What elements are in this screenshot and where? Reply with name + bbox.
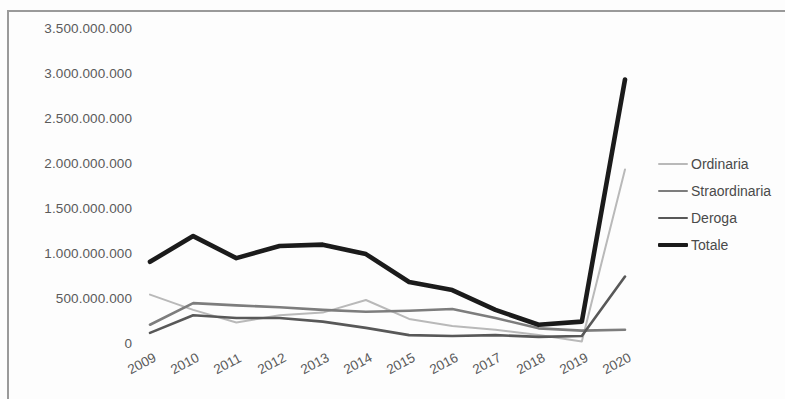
y-axis-tick-label: 0: [12, 336, 132, 351]
y-axis-tick-label: 1.500.000.000: [12, 201, 132, 216]
legend-item-label: Straordinaria: [691, 183, 771, 199]
legend-item-label: Totale: [691, 237, 728, 253]
y-axis-tick-label: 500.000.000: [12, 291, 132, 306]
legend-item-ordinaria[interactable]: Ordinaria: [658, 150, 771, 177]
series-line-ordinaria: [150, 170, 625, 342]
legend-item-straordinaria[interactable]: Straordinaria: [658, 177, 771, 204]
y-axis-tick-label: 3.500.000.000: [12, 21, 132, 36]
chart-legend: OrdinariaStraordinariaDerogaTotale: [658, 150, 771, 258]
legend-swatch-icon: [658, 217, 688, 219]
y-axis-tick-label: 2.500.000.000: [12, 111, 132, 126]
y-axis-tick-label: 2.000.000.000: [12, 156, 132, 171]
legend-item-totale[interactable]: Totale: [658, 231, 771, 258]
y-axis-tick-label: 1.000.000.000: [12, 246, 132, 261]
series-line-totale: [150, 80, 625, 325]
chart-page: 0500.000.0001.000.000.0001.500.000.0002.…: [0, 0, 785, 399]
legend-item-label: Ordinaria: [691, 156, 749, 172]
y-axis-tick-label: 3.000.000.000: [12, 66, 132, 81]
legend-item-deroga[interactable]: Deroga: [658, 204, 771, 231]
legend-swatch-icon: [658, 163, 688, 165]
legend-swatch-icon: [658, 190, 688, 192]
series-layer: [150, 80, 625, 342]
legend-swatch-icon: [658, 243, 688, 247]
legend-item-label: Deroga: [691, 210, 737, 226]
